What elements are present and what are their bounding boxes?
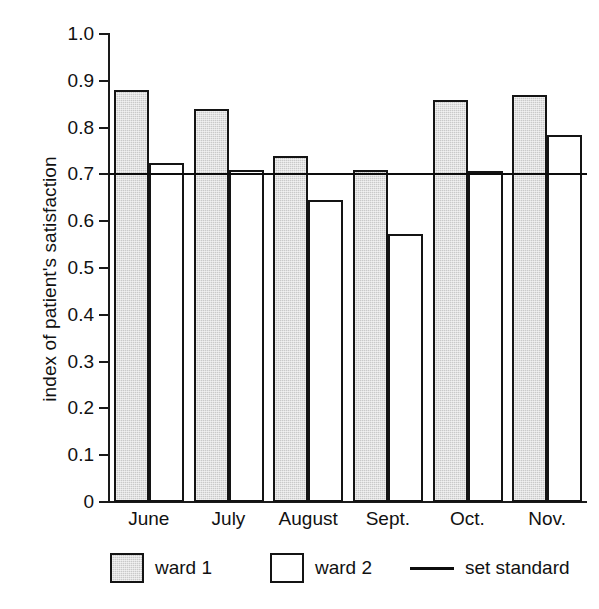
x-tick-label: Sept. <box>348 508 428 530</box>
y-tick-mark <box>99 454 109 456</box>
legend-swatch-icon <box>110 553 144 583</box>
x-tick-label: July <box>189 508 269 530</box>
legend-entry-set-standard: set standard <box>410 548 570 588</box>
y-tick-label: 0.1 <box>42 444 94 466</box>
y-tick-mark <box>99 361 109 363</box>
y-tick-label: 0.2 <box>42 397 94 419</box>
bar-sept-ward-1 <box>353 170 388 502</box>
y-tick-mark <box>99 220 109 222</box>
y-tick-label: 0.7 <box>42 163 94 185</box>
legend-line-icon <box>410 567 454 570</box>
x-tick-label: Oct. <box>428 508 508 530</box>
chart-legend: ward 1ward 2set standard <box>0 548 599 594</box>
legend-label: ward 1 <box>155 557 212 579</box>
legend-swatch-icon <box>270 553 304 583</box>
bar-july-ward-2 <box>229 170 264 502</box>
y-tick-mark <box>99 173 109 175</box>
y-tick-mark <box>99 80 109 82</box>
legend-entry-ward-1: ward 1 <box>110 548 212 588</box>
set-standard-line <box>109 173 587 175</box>
bar-nov-ward-2 <box>547 135 582 502</box>
bar-oct-ward-1 <box>433 100 468 502</box>
y-tick-label: 0.3 <box>42 351 94 373</box>
bar-august-ward-1 <box>273 156 308 502</box>
y-tick-label: 0.9 <box>42 70 94 92</box>
y-tick-label: 0 <box>42 491 94 513</box>
legend-label: set standard <box>465 557 570 579</box>
bar-august-ward-2 <box>308 200 343 502</box>
x-tick-label: August <box>268 508 348 530</box>
legend-label: ward 2 <box>315 557 372 579</box>
bar-nov-ward-1 <box>512 95 547 502</box>
bar-oct-ward-2 <box>468 171 503 502</box>
y-tick-mark <box>99 127 109 129</box>
y-tick-label: 0.8 <box>42 117 94 139</box>
y-tick-mark <box>99 501 109 503</box>
bar-june-ward-2 <box>149 163 184 502</box>
y-tick-label: 0.5 <box>42 257 94 279</box>
y-tick-mark <box>99 267 109 269</box>
bar-july-ward-1 <box>194 109 229 502</box>
y-tick-mark <box>99 33 109 35</box>
x-tick-label: June <box>109 508 189 530</box>
y-tick-label: 1.0 <box>42 23 94 45</box>
y-tick-label: 0.4 <box>42 304 94 326</box>
bar-june-ward-1 <box>114 90 149 502</box>
bar-sept-ward-2 <box>388 234 423 502</box>
y-tick-mark <box>99 407 109 409</box>
legend-entry-ward-2: ward 2 <box>270 548 372 588</box>
x-tick-label: Nov. <box>507 508 587 530</box>
bar-chart-figure: index of patient's satisfaction 1.00.90.… <box>0 0 599 609</box>
y-tick-mark <box>99 314 109 316</box>
y-tick-label: 0.6 <box>42 210 94 232</box>
